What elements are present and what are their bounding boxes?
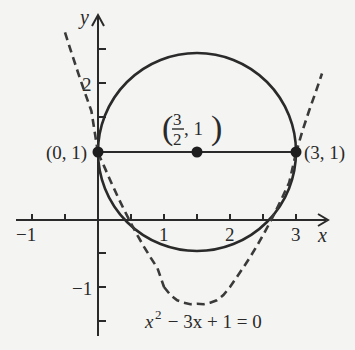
equation-exponent: 2 [155, 307, 162, 322]
x-tick-label-neg1: −1 [16, 224, 36, 245]
point-left-label: (0, 1) [46, 142, 87, 164]
center-label-rest: , 1 [184, 118, 203, 139]
svg-text:): ) [211, 109, 222, 147]
point-left [93, 147, 104, 158]
point-right [291, 147, 302, 158]
y-axis-label: y [78, 6, 89, 29]
x-tick-label-2: 2 [225, 224, 235, 245]
equation-rest: − 3x + 1 = 0 [163, 311, 262, 332]
point-right-label: (3, 1) [304, 142, 345, 164]
y-axis [92, 15, 106, 336]
y-tick-label-neg1: −1 [72, 278, 92, 299]
equation-base: x [144, 311, 154, 332]
center-label-numerator: 3 [173, 110, 182, 129]
point-center-label: ( 3 2 , 1 ) [162, 109, 222, 149]
parabola-curve [65, 32, 322, 304]
svg-text:(: ( [162, 109, 173, 147]
diagram-svg: −1 1 2 3 x 2 −1 y (0, 1) (3, 1) ( 3 2 , … [0, 0, 355, 350]
x-axis [16, 214, 328, 226]
point-center [192, 147, 203, 158]
center-label-denominator: 2 [173, 130, 182, 149]
x-tick-label-3: 3 [291, 224, 301, 245]
x-tick-label-1: 1 [159, 224, 169, 245]
x-axis-label: x [317, 224, 327, 246]
diagram: −1 1 2 3 x 2 −1 y (0, 1) (3, 1) ( 3 2 , … [0, 0, 355, 350]
equation-label: x 2 − 3x + 1 = 0 [144, 307, 262, 332]
